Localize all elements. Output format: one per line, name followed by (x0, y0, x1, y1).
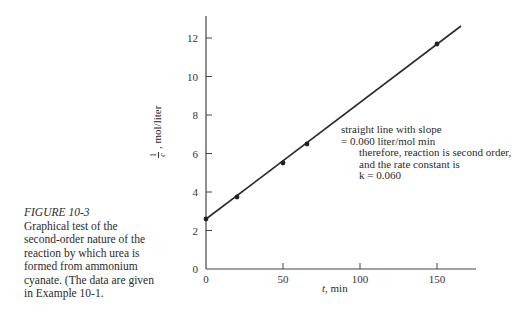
y-axis-label: 1c, mol/liter (150, 106, 167, 158)
svg-text:8: 8 (193, 109, 199, 121)
svg-text:12: 12 (187, 32, 198, 44)
y-ticks (206, 38, 212, 231)
data-point (281, 161, 286, 166)
svg-text:4: 4 (193, 186, 199, 198)
x-axis-label: t, min (322, 282, 348, 294)
y-tick-labels: 0 2 4 6 8 10 12 (187, 32, 199, 275)
data-point (435, 42, 440, 47)
data-point (235, 195, 240, 200)
x-ticks (283, 263, 437, 269)
svg-text:10: 10 (187, 71, 199, 83)
svg-text:150: 150 (429, 273, 446, 285)
data-point (305, 142, 310, 147)
svg-text:0: 0 (193, 263, 199, 275)
svg-text:50: 50 (278, 273, 290, 285)
annotation-line: straight line with slope (341, 124, 511, 136)
data-point (204, 217, 209, 222)
annotation-line: k = 0.060 (341, 170, 511, 182)
svg-text:6: 6 (193, 148, 199, 160)
svg-text:0: 0 (203, 273, 209, 285)
svg-text:2: 2 (193, 225, 199, 237)
slope-annotation: straight line with slope = 0.060 liter/m… (341, 124, 511, 182)
annotation-line: therefore, reaction is second order, (341, 147, 511, 159)
svg-text:100: 100 (352, 273, 369, 285)
